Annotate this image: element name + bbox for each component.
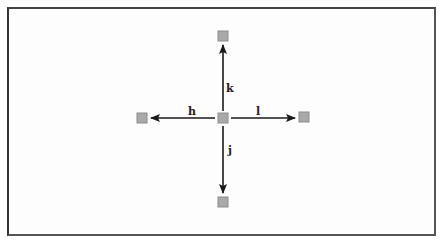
movement-diagram xyxy=(0,0,445,244)
label-down-j: j xyxy=(228,145,232,156)
node-right xyxy=(299,112,309,122)
label-right-l: l xyxy=(256,106,260,117)
label-left-h: h xyxy=(188,106,196,117)
node-center xyxy=(218,113,228,123)
node-up xyxy=(218,31,228,41)
node-down xyxy=(218,197,228,207)
label-up-k: k xyxy=(226,83,234,94)
node-left xyxy=(137,113,147,123)
